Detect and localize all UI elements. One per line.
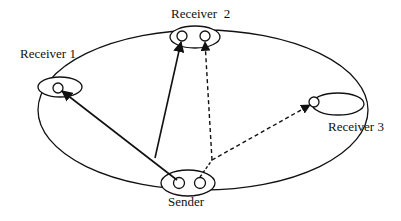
receiver-2-label: Receiver 2 [171, 6, 230, 21]
receiver-3-label: Receiver 3 [328, 119, 384, 134]
receiver-3-node [309, 93, 364, 115]
sender-label: Sender [168, 194, 205, 209]
edge-sender-receiver2-dashed [205, 42, 212, 160]
receiver-2-node [170, 26, 220, 48]
receiver-1-label: Receiver 1 [20, 46, 76, 61]
edge-sender-receiver3-dashed [212, 105, 310, 160]
edge-sender-receiver2-solid [155, 42, 181, 158]
receiver-1-node [38, 77, 82, 97]
multicast-diagram: Receiver 1 Receiver 2 Receiver 3 Sender [0, 0, 401, 221]
